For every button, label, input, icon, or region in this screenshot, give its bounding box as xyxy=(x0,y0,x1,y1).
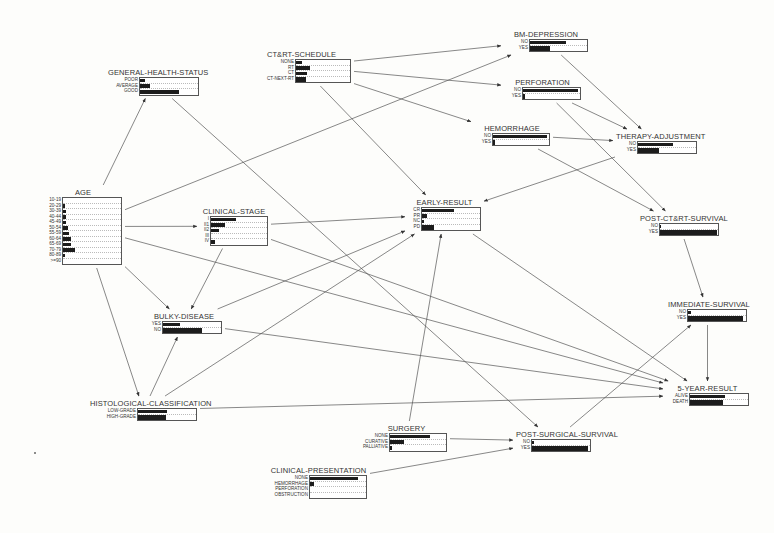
probability-bar xyxy=(493,140,549,146)
node-title: IMMEDIATE-SURVIVAL xyxy=(668,300,747,309)
edge-histological_classification-to-bulky_disease xyxy=(150,337,177,396)
state-label: YES xyxy=(677,315,686,321)
probability-bar xyxy=(690,400,748,406)
edge-therapy_adjustment-to-early_result xyxy=(484,157,615,201)
node-title: HEMORRHAGE xyxy=(474,124,550,133)
probability-fill xyxy=(532,446,588,451)
probability-fill xyxy=(660,230,717,235)
probability-fill xyxy=(163,328,202,333)
edge-surgery-to-post_surgical_survival xyxy=(450,439,513,440)
probability-fill xyxy=(138,415,166,420)
node-title: CLINICAL-STAGE xyxy=(200,207,268,216)
node-clinical-presentation[interactable]: CLINICAL-PRESENTATIONNONEHEMORRHAGEPERFO… xyxy=(270,466,367,499)
probability-bar xyxy=(296,77,350,83)
probability-fill xyxy=(422,214,427,218)
state-label: YES xyxy=(649,229,658,235)
probability-fill xyxy=(296,72,307,76)
node-title: BM-DEPRESSION xyxy=(504,30,588,39)
edge-perforation-to-post_ctrt_survival xyxy=(557,103,666,211)
state-label: PD xyxy=(414,224,420,230)
probability-fill xyxy=(63,232,69,236)
node-title: HISTOLOGICAL-CLASSIFICATION xyxy=(90,399,197,408)
edge-ctrt_schedule-to-early_result xyxy=(320,86,425,195)
node-post-surgical-survival[interactable]: POST-SURGICAL-SURVIVALNOYES xyxy=(516,430,591,452)
state-label: IV xyxy=(205,238,209,244)
state-label: >=90 xyxy=(51,258,61,264)
node-general-health-status[interactable]: GENERAL-HEALTH-STATUSPOORAVERAGEGOOD xyxy=(108,68,199,96)
node-perforation[interactable]: PERFORATIONNOYES xyxy=(504,78,581,100)
probability-fill xyxy=(63,248,75,252)
probability-fill xyxy=(690,395,725,399)
edge-clinical_stage-to-bulky_disease xyxy=(191,249,222,310)
edge-age-to-general_health_status xyxy=(103,99,145,186)
edge-hemorrhage-to-therapy_adjustment xyxy=(553,137,613,140)
probability-fill xyxy=(523,94,525,99)
node-five-year-result[interactable]: 5-YEAR-RESULTALIVEDEATH xyxy=(666,384,749,406)
probability-bar xyxy=(532,446,590,452)
edge-perforation-to-therapy_adjustment xyxy=(572,103,627,129)
probability-bar xyxy=(523,94,580,100)
node-hemorrhage[interactable]: HEMORRHAGENOYES xyxy=(474,124,550,146)
node-bulky-disease[interactable]: BULKY-DISEASEYESNO xyxy=(146,312,222,334)
node-ctrt-schedule[interactable]: CT&RT-SCHEDULENONERTCTCT-NEXT-RT xyxy=(252,50,351,83)
state-label: CT-NEXT-RT xyxy=(267,76,294,82)
state-label: YES xyxy=(627,147,636,153)
node-title: CT&RT-SCHEDULE xyxy=(252,50,351,59)
probability-fill xyxy=(211,223,225,227)
edge-surgery-to-early_result xyxy=(409,234,441,421)
probability-fill xyxy=(63,237,71,241)
probability-fill xyxy=(138,410,167,414)
node-therapy-adjustment[interactable]: THERAPY-ADJUSTMENTNOYES xyxy=(616,132,697,154)
state-label: YES xyxy=(521,445,530,451)
probability-bar xyxy=(63,259,121,265)
state-label: YES xyxy=(519,45,528,51)
probability-fill xyxy=(140,79,145,83)
probability-bar xyxy=(688,316,746,322)
state-label: YES xyxy=(482,139,491,145)
node-clinical-stage[interactable]: CLINICAL-STAGEIII1II2IIIIV xyxy=(200,207,268,246)
edge-clinical_stage-to-early_result xyxy=(271,217,405,224)
edge-age-to-histological_classification xyxy=(97,268,139,396)
probability-bar xyxy=(310,493,366,499)
probability-bar xyxy=(211,239,267,245)
node-surgery[interactable]: SURGERYNONECURATIVEPALLIATIVE xyxy=(366,424,447,452)
probability-fill xyxy=(690,400,723,405)
state-label: DEATH xyxy=(673,399,688,405)
node-title: AGE xyxy=(44,188,122,197)
probability-bar xyxy=(140,89,198,95)
node-title: BULKY-DISEASE xyxy=(146,312,222,321)
edge-age-to-five_year_result xyxy=(125,238,663,383)
node-immediate-survival[interactable]: IMMEDIATE-SURVIVALNOYES xyxy=(668,300,747,322)
probability-fill xyxy=(140,90,179,95)
probability-fill xyxy=(530,41,566,45)
state-label: NO xyxy=(154,327,161,333)
edge-ctrt_schedule-to-bm_depression xyxy=(354,46,501,61)
node-bm-depression[interactable]: BM-DEPRESSIONNOYES xyxy=(504,30,588,52)
node-title: THERAPY-ADJUSTMENT xyxy=(616,132,697,141)
probability-fill xyxy=(310,477,358,481)
edge-early_result-to-five_year_result xyxy=(473,234,687,381)
probability-fill xyxy=(63,210,66,214)
probability-fill xyxy=(422,209,454,213)
node-title: POST-SURGICAL-SURVIVAL xyxy=(516,430,591,439)
probability-fill xyxy=(638,143,673,147)
probability-bar xyxy=(638,148,696,154)
node-age[interactable]: AGE10-1920-2930-3940-4445-4950-5455-5960… xyxy=(44,188,122,265)
probability-fill xyxy=(390,435,430,439)
edge-clinical_presentation-to-post_surgical_survival xyxy=(370,448,513,473)
probability-fill xyxy=(688,316,743,321)
state-label: OBSTRUCTION xyxy=(275,492,308,498)
probability-fill xyxy=(296,61,302,65)
node-histological-classification[interactable]: HISTOLOGICAL-CLASSIFICATIONLOW-GRADEHIGH… xyxy=(90,399,197,421)
node-post-ctrt-survival[interactable]: POST-CT&RT-SURVIVALNOYES xyxy=(640,214,719,236)
node-title: EARLY-RESULT xyxy=(408,198,481,207)
probability-fill xyxy=(530,46,550,51)
probability-fill xyxy=(211,229,219,233)
probability-fill xyxy=(532,441,534,445)
node-early-result[interactable]: EARLY-RESULTCRPRNCPD xyxy=(408,198,481,231)
probability-fill xyxy=(523,89,578,93)
probability-fill xyxy=(140,84,150,88)
probability-bar xyxy=(422,225,480,231)
edge-bulky_disease-to-five_year_result xyxy=(225,329,663,389)
edge-ctrt_schedule-to-hemorrhage xyxy=(354,84,471,122)
